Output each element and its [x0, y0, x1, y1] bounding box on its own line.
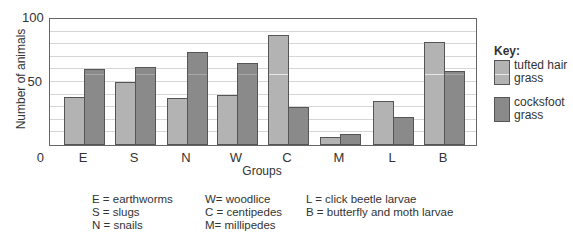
- gridline: [50, 56, 476, 57]
- y-axis-label: Number of animals: [14, 24, 28, 134]
- x-tick-l: L: [382, 150, 402, 165]
- legend-swatch-cocksfoot: [494, 97, 510, 122]
- abbr-c: C = centipedes: [205, 206, 282, 219]
- abbr-n: N = snails: [92, 219, 143, 232]
- x-axis-label: Groups: [237, 164, 287, 178]
- y-tick-100: 100: [22, 10, 42, 25]
- bar-w-tufted: [217, 95, 238, 145]
- gridline: [50, 31, 476, 32]
- bar-m-tufted: [320, 137, 341, 145]
- bar-s-tufted: [115, 82, 136, 145]
- abbr-w: W= woodlice: [205, 193, 271, 206]
- gridline: [50, 94, 476, 95]
- bar-e-tufted: [64, 97, 85, 145]
- bar-w-cocksfoot: [237, 63, 258, 145]
- bar-b-tufted: [424, 42, 445, 145]
- x-tick-m: M: [329, 150, 349, 165]
- bar-l-tufted: [373, 101, 394, 145]
- gridline: [50, 106, 476, 107]
- bar-m-cocksfoot: [340, 134, 361, 145]
- legend-title: Key:: [494, 44, 520, 58]
- gridline: [50, 68, 476, 69]
- x-tick-s: S: [124, 150, 144, 165]
- bar-e-cocksfoot: [84, 69, 105, 145]
- plot-area: [49, 18, 477, 146]
- bar-n-cocksfoot: [187, 52, 208, 145]
- x-tick-n: N: [176, 150, 196, 165]
- abbr-s: S = slugs: [92, 206, 140, 219]
- bar-s-cocksfoot: [135, 67, 156, 145]
- abbr-b: B = butterfly and moth larvae: [306, 206, 453, 219]
- bar-n-tufted: [167, 98, 188, 145]
- bar-l-cocksfoot: [393, 117, 414, 145]
- legend-label-tufted: tufted hair grass: [514, 59, 573, 85]
- bar-c-cocksfoot: [288, 107, 309, 145]
- gridline: [50, 81, 476, 82]
- gridline: [50, 43, 476, 44]
- x-tick-e: E: [73, 150, 93, 165]
- legend-swatch-tufted: [494, 60, 510, 85]
- x-tick-b: B: [433, 150, 453, 165]
- legend-label-cocksfoot: cocksfoot grass: [514, 96, 573, 122]
- abbr-m: M= millipedes: [205, 219, 276, 232]
- x-tick-c: C: [277, 150, 297, 165]
- bar-b-cocksfoot: [444, 71, 465, 145]
- x-tick-w: W: [226, 150, 246, 165]
- abbr-e: E = earthworms: [92, 193, 173, 206]
- abbr-l: L = click beetle larvae: [306, 193, 416, 206]
- bar-c-tufted: [268, 35, 289, 145]
- y-tick-0: 0: [24, 150, 44, 165]
